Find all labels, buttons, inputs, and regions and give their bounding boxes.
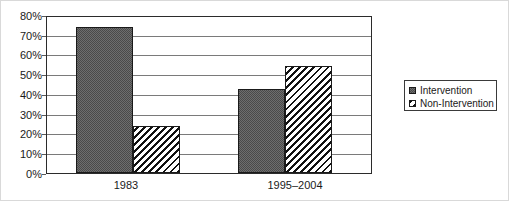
y-tick-mark-0 (42, 174, 46, 175)
legend-swatch-non-intervention-icon (409, 100, 416, 107)
legend-label-intervention: Intervention (420, 85, 472, 96)
y-tick-label-10: 10% (2, 149, 42, 160)
y-tick-label-0: 0% (2, 169, 42, 180)
bar-1983-intervention (76, 27, 133, 173)
legend-item-non-intervention: Non-Intervention (409, 97, 493, 109)
y-tick-label-60: 60% (2, 50, 42, 61)
y-axis: 80% 70% 60% 50% 40% 30% 20% 10% 0% (0, 16, 42, 174)
legend-label-non-intervention: Non-Intervention (420, 98, 494, 109)
y-tick-label-50: 50% (2, 70, 42, 81)
legend: Intervention Non-Intervention (404, 80, 497, 111)
bar-1983-non-intervention (133, 126, 180, 173)
y-tick-label-80: 80% (2, 11, 42, 22)
legend-item-intervention: Intervention (409, 84, 493, 96)
x-category-label-1995-2004: 1995–2004 (245, 179, 345, 191)
bar-chart: 80% 70% 60% 50% 40% 30% 20% 10% 0% 1 (0, 0, 510, 202)
plot-area (46, 16, 372, 174)
x-category-label-1983: 1983 (86, 179, 166, 191)
y-tick-label-70: 70% (2, 31, 42, 42)
y-tick-label-20: 20% (2, 129, 42, 140)
bar-1995-2004-non-intervention (285, 66, 332, 173)
legend-swatch-intervention-icon (409, 87, 416, 94)
y-tick-label-40: 40% (2, 90, 42, 101)
y-tick-label-30: 30% (2, 110, 42, 121)
bar-1995-2004-intervention (238, 89, 285, 173)
